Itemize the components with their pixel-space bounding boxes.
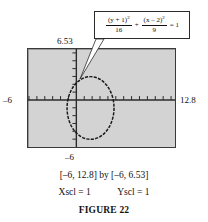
equation-rhs: = 1 — [170, 22, 179, 29]
term-one-numerator-base: (y + 1) — [108, 16, 127, 24]
term-one-exponent: 2 — [127, 14, 130, 19]
scale-caption: Xscl = 1 Yscl = 1 — [0, 187, 208, 198]
plus-operator: + — [135, 22, 139, 29]
graph-canvas — [28, 49, 175, 147]
x-min-label: –6 — [3, 95, 12, 105]
y-min-label: –6 — [65, 152, 74, 162]
equation: (y + 1)2 16 + (x – 2)2 9 = 1 — [105, 17, 179, 34]
term-two-fraction: (x – 2)2 9 — [142, 17, 167, 34]
term-one-numerator: (y + 1)2 — [106, 17, 132, 25]
term-one-fraction: (y + 1)2 16 — [106, 17, 132, 34]
figure-container: 6.53 –6 12.8 –6 (y + 1)2 16 + (x – 2)2 9… — [0, 0, 208, 222]
xscl-label: Xscl = 1 — [59, 187, 91, 197]
y-max-label: 6.53 — [57, 36, 73, 46]
term-two-numerator: (x – 2)2 — [142, 17, 167, 25]
x-max-label: 12.8 — [180, 95, 196, 105]
viewing-window-caption: [–6, 12.8] by [–6, 6.53] — [0, 170, 208, 181]
calculator-screen — [27, 48, 176, 148]
term-one-denominator: 16 — [113, 26, 124, 34]
figure-number: FIGURE 22 — [0, 205, 208, 216]
yscl-label: Yscl = 1 — [117, 187, 149, 197]
equation-callout: (y + 1)2 16 + (x – 2)2 9 = 1 — [94, 11, 190, 39]
term-two-numerator-base: (x – 2) — [144, 16, 163, 24]
term-two-denominator: 9 — [150, 26, 158, 34]
term-two-exponent: 2 — [162, 14, 165, 19]
